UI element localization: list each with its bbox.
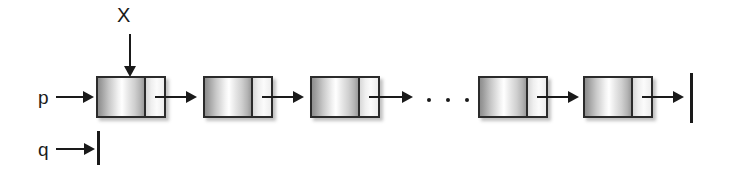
node-data-cell [585,78,631,116]
node-data-cell [480,78,526,116]
node-2-next-arrow-head-icon [293,91,304,103]
q-null-terminator [97,131,100,165]
node-2-next-shaft [262,96,295,98]
linked-list-diagram: X p q [0,0,729,176]
node-5-next-shaft [642,96,675,98]
q-arrow-head-icon [84,143,95,155]
tail-null-terminator [690,73,693,123]
node-3-next-arrow-head-icon [402,91,413,103]
node-5-next-arrow-head-icon [673,91,684,103]
ellipsis-dot [427,98,431,102]
p-arrow-head-icon [83,91,94,103]
label-p: p [38,88,49,107]
label-q: q [38,140,49,159]
x-arrow-shaft [129,34,131,68]
p-arrow-shaft [56,96,84,98]
node-4-next-shaft [537,96,570,98]
ellipsis-dot [465,98,469,102]
node-1-next-arrow-head-icon [186,91,197,103]
node-4-next-arrow-head-icon [568,91,579,103]
node-data-cell [205,78,251,116]
node-3-next-shaft [369,96,404,98]
q-arrow-shaft [56,148,85,150]
node-data-cell [312,78,358,116]
node-data-cell [98,78,144,116]
label-x: X [117,6,130,25]
node-1-next-shaft [155,96,188,98]
ellipsis-dot [446,98,450,102]
